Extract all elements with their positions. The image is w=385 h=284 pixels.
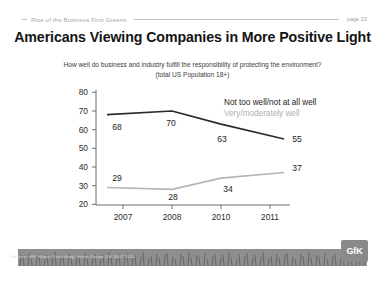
data-label-light-2010: 34 xyxy=(223,184,233,194)
y-tick-label-40: 40 xyxy=(79,162,89,172)
line-chart: 80 70 60 50 40 30 20 2007 2008 2010 2011 xyxy=(0,0,385,240)
data-label-light-2011: 37 xyxy=(292,163,302,173)
x-tick-label-2010: 2010 xyxy=(212,212,231,222)
data-label-light-2008: 28 xyxy=(168,192,178,202)
data-label-dark-2008: 70 xyxy=(166,118,176,128)
series-line-very-moderately-well xyxy=(107,173,284,190)
source-note: Source: GfK Roper Consulting Green Gauge… xyxy=(11,254,135,259)
legend-item-very-moderately-well: Very/moderately well xyxy=(224,109,300,118)
data-label-light-2007: 29 xyxy=(112,173,122,183)
y-tick-label-50: 50 xyxy=(79,143,89,153)
gfk-logo: GfK xyxy=(341,240,368,262)
x-tick-label-2008: 2008 xyxy=(163,212,182,222)
x-tick-label-2011: 2011 xyxy=(261,212,279,222)
legend-item-not-too-well: Not too well/not at all well xyxy=(224,98,317,107)
y-tick-label-20: 20 xyxy=(79,199,89,209)
y-tick-label-30: 30 xyxy=(79,181,89,191)
slide: Rise of the Business First Greens page 2… xyxy=(0,0,385,284)
y-axis-ticks xyxy=(92,92,96,204)
y-tick-label-70: 70 xyxy=(79,106,89,116)
data-label-dark-2007: 68 xyxy=(112,122,122,132)
y-tick-label-60: 60 xyxy=(79,125,89,135)
x-tick-label-2007: 2007 xyxy=(114,212,133,222)
data-label-dark-2011: 55 xyxy=(292,134,302,144)
y-tick-label-80: 80 xyxy=(79,87,89,97)
data-label-dark-2010: 63 xyxy=(217,134,227,144)
x-axis-ticks xyxy=(123,205,270,209)
